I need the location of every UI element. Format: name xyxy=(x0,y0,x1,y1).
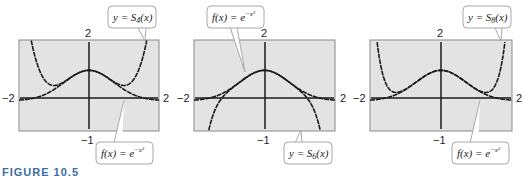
callout-pointer xyxy=(495,28,502,41)
x-max-label: 2 xyxy=(163,92,169,104)
x-min-label: −2 xyxy=(177,92,190,104)
x-min-label: −2 xyxy=(353,92,366,104)
callout-label-s8: y = S8(x) xyxy=(467,11,508,25)
plot-s8: −2 2 2 −1 y = S8(x) f(x) = e−x² xyxy=(350,0,524,176)
plot-panel-s6: −2 2 2 −1 f(x) = e−x² y = S6(x) xyxy=(175,0,350,176)
x-min-label: −2 xyxy=(2,92,15,104)
callout-label-s4: y = S4(x) xyxy=(112,11,153,25)
callout-pointer xyxy=(295,130,302,143)
callout-label-s6: y = S6(x) xyxy=(288,147,329,161)
y-min-label: −1 xyxy=(257,134,270,146)
y-max-label: 2 xyxy=(85,27,91,39)
x-max-label: 2 xyxy=(516,92,522,104)
y-max-label: 2 xyxy=(437,27,443,39)
plot-s4: −2 2 2 −1 y = S4(x) f(x) = e−x² xyxy=(0,0,175,176)
figure-caption: FIGURE 10.5 xyxy=(2,166,79,176)
x-max-label: 2 xyxy=(340,92,346,104)
plot-panel-s8: −2 2 2 −1 y = S8(x) f(x) = e−x² xyxy=(350,0,524,176)
callout-pointer xyxy=(138,28,146,41)
plot-s6: −2 2 2 −1 f(x) = e−x² y = S6(x) xyxy=(175,0,350,176)
y-min-label: −1 xyxy=(81,134,94,146)
y-min-label: −1 xyxy=(433,134,446,146)
plot-panel-s4: −2 2 2 −1 y = S4(x) f(x) = e−x² xyxy=(0,0,175,176)
y-max-label: 2 xyxy=(261,27,267,39)
